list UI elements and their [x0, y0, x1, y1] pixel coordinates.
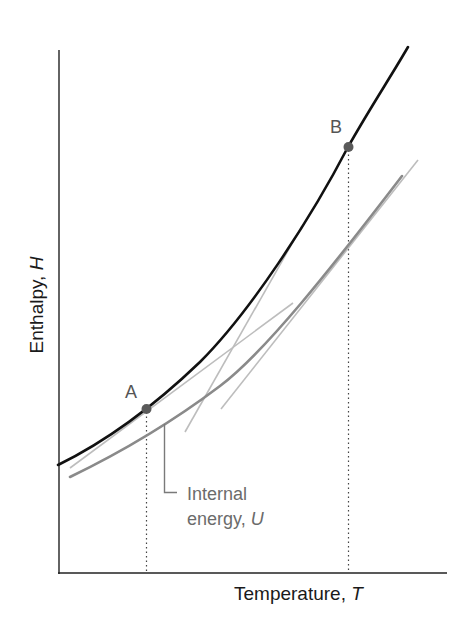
x-axis-label-text: Temperature, — [234, 583, 351, 604]
internal-energy-symbol: U — [251, 509, 264, 529]
enthalpy-temperature-diagram — [0, 0, 456, 627]
y-axis-label-text: Enthalpy, — [26, 270, 47, 353]
y-axis-symbol: H — [26, 257, 47, 271]
x-axis-label: Temperature, T — [234, 584, 363, 603]
internal-energy-label-line2: energy, U — [187, 507, 264, 532]
tangent-line-h-at-a — [70, 303, 293, 468]
y-axis-label: Enthalpy, H — [27, 257, 46, 354]
enthalpy-curve — [58, 47, 408, 465]
point-b-label: B — [330, 118, 342, 136]
point-a-label: A — [125, 383, 137, 401]
internal-energy-label-text: energy, — [187, 509, 251, 529]
annotation-leader-line — [165, 424, 178, 493]
point-b-marker — [344, 142, 354, 152]
internal-energy-label-line1: Internal — [187, 482, 247, 507]
point-a-marker — [142, 404, 152, 414]
x-axis-symbol: T — [351, 583, 363, 604]
